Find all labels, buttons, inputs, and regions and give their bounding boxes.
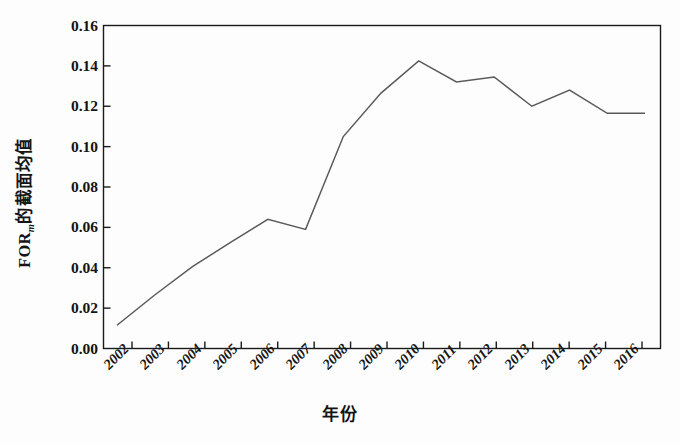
plot-area [0,0,680,444]
axis-frame [104,26,661,349]
x-axis-ticks [132,342,642,349]
chart-figure: FORm的截面均值 0.160.140.120.100.080.060.040.… [0,0,680,444]
y-axis-ticks [104,66,111,308]
data-series-group [117,61,645,325]
